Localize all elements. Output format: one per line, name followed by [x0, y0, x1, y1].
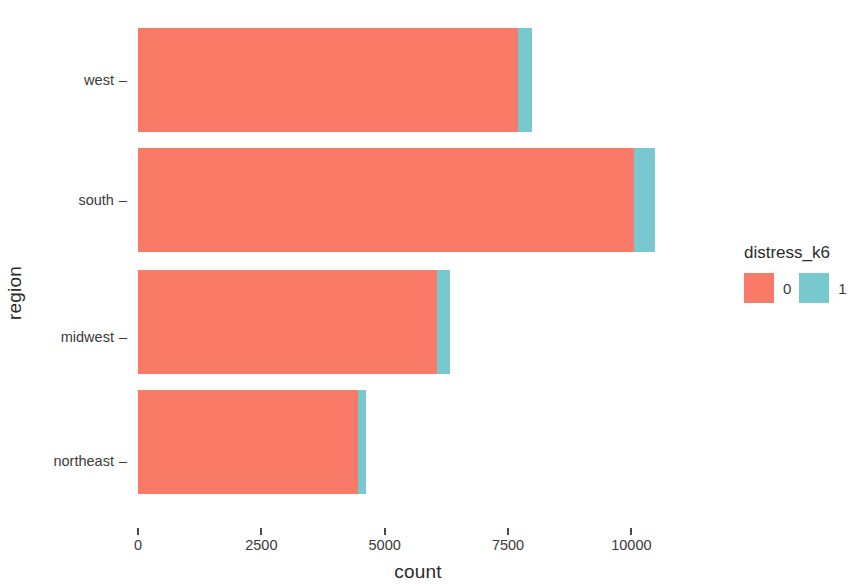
bar-segment-south-1	[634, 148, 655, 252]
y-tick-label-west: west–	[7, 72, 127, 88]
y-tick-dash-icon: –	[119, 72, 127, 88]
bar-segment-midwest-0	[138, 270, 437, 374]
bar-row	[138, 148, 655, 252]
y-tick-text: northeast	[53, 453, 113, 469]
x-tick-label-2500: 2500	[245, 537, 277, 553]
bar-row	[138, 390, 366, 494]
legend-keys: 0 1	[744, 273, 867, 303]
bar-segment-south-0	[138, 148, 634, 252]
x-tick-mark-0	[137, 528, 139, 535]
legend-item-1[interactable]: 1	[799, 273, 846, 303]
y-tick-text: midwest	[61, 329, 114, 345]
x-tick-label-7500: 7500	[492, 537, 524, 553]
legend-swatch-0	[744, 273, 774, 303]
chart-container: region west– south– midwest– northeast– …	[0, 0, 867, 586]
x-tick-mark-7500	[507, 528, 509, 535]
x-tick-mark-2500	[260, 528, 262, 535]
x-tick-label-10000: 10000	[611, 537, 651, 553]
y-tick-label-midwest: midwest–	[7, 329, 127, 345]
plot-panel	[138, 0, 698, 528]
legend-label-0: 0	[783, 280, 791, 297]
bar-segment-midwest-1	[437, 270, 450, 374]
x-tick-mark-10000	[630, 528, 632, 535]
bar-segment-northeast-1	[358, 390, 367, 494]
x-tick-label-0: 0	[134, 537, 142, 553]
x-axis: 025005000750010000 count	[138, 528, 698, 586]
y-tick-dash-icon: –	[119, 453, 127, 469]
x-axis-title: count	[138, 561, 698, 583]
legend-item-0[interactable]: 0	[744, 273, 791, 303]
bar-row	[138, 28, 532, 132]
legend-label-1: 1	[838, 280, 846, 297]
y-tick-label-south: south–	[7, 192, 127, 208]
legend: distress_k6 0 1	[744, 243, 867, 303]
y-tick-label-northeast: northeast–	[7, 453, 127, 469]
bar-segment-west-0	[138, 28, 518, 132]
y-tick-dash-icon: –	[119, 329, 127, 345]
bar-segment-northeast-0	[138, 390, 358, 494]
x-tick-label-5000: 5000	[369, 537, 401, 553]
y-axis-tick-labels: west– south– midwest– northeast–	[0, 0, 127, 586]
bar-row	[138, 270, 450, 374]
bar-segment-west-1	[518, 28, 532, 132]
y-tick-dash-icon: –	[119, 192, 127, 208]
y-tick-text: south	[78, 192, 113, 208]
x-tick-mark-5000	[384, 528, 386, 535]
legend-swatch-1	[799, 273, 829, 303]
legend-title: distress_k6	[744, 243, 867, 263]
y-tick-text: west	[84, 72, 114, 88]
